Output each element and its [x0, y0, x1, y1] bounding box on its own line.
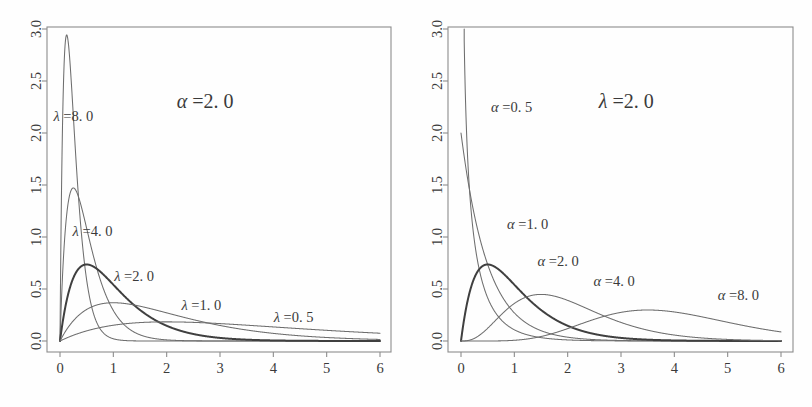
- panel-parameter-title: λ =2. 0: [598, 90, 654, 112]
- y-axis-tick-label: 3.0: [28, 20, 44, 38]
- x-axis-tick-label: 4: [270, 360, 278, 376]
- density-curve: [60, 35, 380, 341]
- x-axis-tick-label: 3: [216, 360, 223, 376]
- y-axis-tick-label: 2.0: [429, 124, 445, 142]
- curve-annotation-label: λ =2. 0: [113, 268, 154, 284]
- x-axis-tick-label: 1: [110, 360, 117, 376]
- curve-annotation-label: λ =1. 0: [180, 297, 221, 313]
- y-axis-tick-label: 1.0: [429, 228, 445, 246]
- curve-annotation-label: λ =0. 5: [273, 309, 314, 325]
- panel-parameter-title: α =2. 0: [177, 90, 234, 112]
- x-axis-tick-label: 5: [323, 360, 330, 376]
- y-axis-tick-label: 3.0: [429, 20, 445, 38]
- x-axis-tick-label: 2: [163, 360, 170, 376]
- y-axis-tick-label: 2.5: [28, 72, 44, 90]
- curve-annotation-label: λ =4. 0: [72, 223, 113, 239]
- x-axis-tick-label: 4: [671, 360, 679, 376]
- x-axis-tick-label: 6: [777, 360, 784, 376]
- y-axis-tick-label: 2.0: [28, 124, 44, 142]
- y-axis-tick-label: 0.0: [429, 332, 445, 350]
- y-axis-tick-label: 2.5: [429, 72, 445, 90]
- y-axis-tick-label: 1.5: [28, 176, 44, 194]
- labels-group-left: λ =8. 0λ =4. 0λ =2. 0λ =1. 0λ =0. 5α =2.…: [52, 90, 313, 325]
- curve-annotation-label: α =1. 0: [507, 216, 548, 232]
- curve-annotation-label: λ =8. 0: [52, 108, 93, 124]
- y-axis-tick-label: 0.5: [28, 280, 44, 298]
- gamma-density-figure: 01234560.00.51.01.52.02.53.0 λ =8. 0λ =4…: [0, 0, 812, 407]
- curve-annotation-label: α =8. 0: [718, 287, 759, 303]
- x-axis-tick-label: 0: [457, 360, 464, 376]
- chart-svg-right: 01234560.00.51.01.52.02.53.0 α =0. 5α =1…: [406, 0, 812, 407]
- chart-panel-alpha-fixed: 01234560.00.51.01.52.02.53.0 λ =8. 0λ =4…: [0, 0, 406, 407]
- y-axis-tick-label: 0.5: [429, 280, 445, 298]
- plot-frame: [448, 27, 793, 352]
- curves-group-left: [60, 35, 380, 341]
- axes-group-right: 01234560.00.51.01.52.02.53.0: [429, 20, 793, 376]
- x-axis-tick-label: 1: [511, 360, 518, 376]
- y-axis-tick-label: 0.0: [28, 332, 44, 350]
- x-axis-tick-label: 6: [376, 360, 383, 376]
- density-curve: [60, 188, 380, 341]
- curve-annotation-label: α =4. 0: [593, 273, 634, 289]
- x-axis-tick-label: 2: [564, 360, 571, 376]
- density-curve: [461, 133, 781, 341]
- curve-annotation-label: α =0. 5: [491, 99, 532, 115]
- density-curve: [461, 310, 781, 341]
- chart-svg-left: 01234560.00.51.01.52.02.53.0 λ =8. 0λ =4…: [0, 0, 406, 407]
- chart-panel-lambda-fixed: 01234560.00.51.01.52.02.53.0 α =0. 5α =1…: [406, 0, 812, 407]
- x-axis-tick-label: 5: [724, 360, 731, 376]
- x-axis-tick-label: 0: [56, 360, 63, 376]
- y-axis-tick-label: 1.0: [28, 228, 44, 246]
- y-axis-tick-label: 1.5: [429, 176, 445, 194]
- x-axis-tick-label: 3: [617, 360, 624, 376]
- curve-annotation-label: α =2. 0: [537, 253, 578, 269]
- labels-group-right: α =0. 5α =1. 0α =2. 0α =4. 0α =8. 0λ =2.…: [491, 90, 759, 303]
